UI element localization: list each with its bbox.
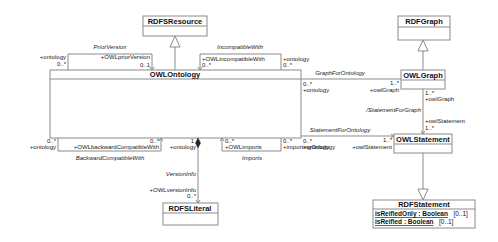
assoc-name: IncompatibleWith bbox=[217, 44, 264, 50]
role-label: +ontology bbox=[303, 87, 329, 93]
role-label: +owlStatement bbox=[425, 118, 465, 124]
hollow-triangle-icon bbox=[418, 40, 428, 51]
association-graph-for-ontology[interactable]: GraphForOntology 0..* +ontology 1..* +ow… bbox=[301, 70, 401, 93]
multiplicity: 0..* bbox=[202, 62, 212, 68]
multiplicity: 1..* bbox=[390, 80, 400, 86]
assoc-name: Imports bbox=[242, 155, 262, 161]
assoc-name: GraphForOntology bbox=[315, 70, 366, 76]
role-label: +owlStatement bbox=[352, 144, 392, 150]
class-name: RDFGraph bbox=[405, 17, 443, 26]
class-name: RDFSLiteral bbox=[169, 204, 212, 213]
role-label: +OWLimports bbox=[225, 144, 262, 150]
class-rdfs-literal[interactable]: RDFSLiteral bbox=[163, 203, 218, 225]
uml-diagram: RDFSResource OWLOntology RDFGraph OWLGra… bbox=[0, 0, 498, 242]
class-name: RDFSResource bbox=[148, 17, 203, 26]
assoc-name: VersionInfo bbox=[166, 171, 197, 177]
hollow-triangle-icon bbox=[418, 189, 428, 200]
class-rdf-graph[interactable]: RDFGraph bbox=[398, 16, 450, 40]
role-label: +OWLbackwardCompatibleWith bbox=[74, 144, 159, 150]
composition-diamond-icon bbox=[196, 138, 201, 148]
multiplicity: 0..* bbox=[57, 61, 67, 67]
class-name: OWLStatement bbox=[396, 135, 450, 144]
class-name: OWLGraph bbox=[403, 71, 443, 80]
multiplicity: 1..* bbox=[383, 137, 393, 143]
association-statement-for-graph[interactable]: /StatementForGraph 1..* +owlGraph +owlSt… bbox=[365, 89, 465, 134]
role-label: +ontology bbox=[30, 144, 56, 150]
generalization-owlstatement-rdfstatement bbox=[418, 153, 428, 200]
association-imports[interactable]: Imports 0..* +OWLimports 0..* +importing… bbox=[220, 138, 335, 161]
multiplicity: 1..* bbox=[425, 125, 435, 131]
role-label: +OWLincompatibleWith bbox=[202, 56, 265, 62]
class-rdfs-resource[interactable]: RDFSResource bbox=[143, 16, 207, 36]
hollow-triangle-icon bbox=[170, 36, 180, 47]
multiplicity: 0..* bbox=[187, 193, 197, 199]
role-label: +ontology bbox=[170, 144, 196, 150]
multiplicity: 0..* bbox=[283, 62, 293, 68]
assoc-name: BackwardCompatibleWith bbox=[76, 155, 145, 161]
role-label: +OWLpriorVersion bbox=[101, 54, 150, 60]
generalization-ontology-resource bbox=[170, 36, 180, 70]
role-label: +ontology bbox=[40, 54, 66, 60]
role-label: +owlGraph bbox=[370, 87, 399, 93]
assoc-name: StatementForOntology bbox=[310, 127, 371, 133]
class-owl-statement[interactable]: OWLStatement bbox=[394, 134, 452, 153]
association-incompatible-with[interactable]: IncompatibleWith +OWLincompatibleWith 0.… bbox=[198, 44, 309, 70]
association-backward-compatible-with[interactable]: BackwardCompatibleWith 0..* +ontology 0.… bbox=[30, 138, 163, 161]
role-label: +owlGraph bbox=[425, 96, 454, 102]
assoc-name: PriorVersion bbox=[94, 44, 127, 50]
generalization-owlgraph-rdfgraph bbox=[418, 40, 428, 70]
class-owl-ontology[interactable]: OWLOntology bbox=[50, 70, 301, 138]
assoc-name: /StatementForGraph bbox=[365, 107, 421, 113]
class-name: RDFStatement bbox=[398, 200, 450, 209]
class-owl-graph[interactable]: OWLGraph bbox=[401, 70, 445, 89]
association-prior-version[interactable]: PriorVersion +ontology 0..* +OWLpriorVer… bbox=[40, 44, 154, 70]
class-rdf-statement[interactable]: RDFStatement isReifiedOnly : Boolean [0.… bbox=[373, 200, 475, 228]
class-name: OWLOntology bbox=[150, 70, 201, 79]
multiplicity: 0..1 bbox=[140, 62, 151, 68]
role-label: +importingOntology bbox=[283, 144, 335, 150]
